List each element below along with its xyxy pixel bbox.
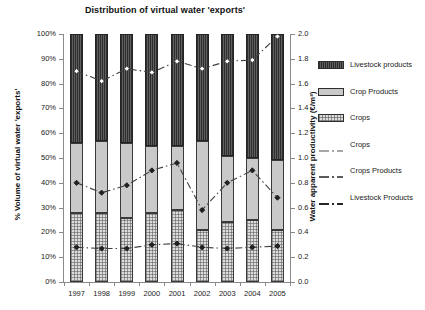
y-axis-left-tick — [59, 108, 63, 109]
legend-swatch-icon — [318, 114, 344, 122]
legend-line-key-icon — [318, 167, 344, 175]
y-axis-left-tick-label: 70% — [16, 104, 56, 112]
chart-figure: Distribution of virtual water 'exports' … — [0, 0, 425, 310]
line-marker — [250, 245, 255, 250]
y-axis-right-tick — [291, 257, 295, 258]
x-axis-tick — [190, 282, 191, 286]
y-axis-right-tick — [291, 158, 295, 159]
line-marker — [200, 245, 205, 250]
y-axis-right-tick — [291, 34, 295, 35]
x-axis-tick — [215, 282, 216, 286]
y-axis-left-tick — [59, 59, 63, 60]
x-axis-tick — [290, 282, 291, 286]
y-axis-right-tick-label: 0.4 — [298, 228, 338, 236]
line-series — [74, 34, 280, 84]
legend-line-key-icon — [318, 194, 344, 202]
legend-item[interactable]: Crop Products — [318, 85, 425, 99]
x-axis-tick — [240, 282, 241, 286]
legend-item[interactable]: Crops — [318, 111, 425, 125]
line-path — [77, 163, 278, 210]
y-axis-left-tick — [59, 282, 63, 283]
line-marker — [174, 59, 179, 64]
line-marker — [275, 34, 280, 39]
chart-title: Distribution of virtual water 'exports' — [0, 5, 330, 15]
y-axis-left-tick — [59, 158, 63, 159]
x-axis-tick — [89, 282, 90, 286]
x-axis-tick — [64, 282, 65, 286]
y-axis-left-tick-label: 20% — [16, 228, 56, 236]
line-marker — [149, 70, 154, 75]
line-marker — [174, 241, 179, 246]
legend-item[interactable]: Crops — [318, 138, 425, 152]
legend-item-label: Crops — [350, 141, 370, 149]
legend-swatch-icon — [318, 88, 344, 96]
y-axis-left-tick-label: 10% — [16, 253, 56, 261]
y-axis-left-tick-label: 30% — [16, 204, 56, 212]
x-axis-tick — [139, 282, 140, 286]
legend-item[interactable]: Livestock products — [318, 58, 425, 72]
y-axis-left-tick — [59, 183, 63, 184]
line-marker — [99, 79, 104, 84]
line-marker — [124, 66, 129, 71]
legend-item-label: Crops — [350, 114, 370, 122]
line-marker — [149, 242, 154, 247]
line-marker — [250, 57, 255, 62]
y-axis-left-tick-label: 0% — [16, 278, 56, 286]
line-marker — [99, 190, 104, 195]
chart-legend: Livestock productsCrop ProductsCropsCrop… — [318, 58, 425, 217]
line-marker — [124, 246, 129, 251]
line-marker — [225, 59, 230, 64]
plot-area: 100%90%80%70%60%50%40%30%20%10%0% 2.01.8… — [64, 34, 290, 282]
legend-swatch-icon — [318, 61, 344, 69]
x-axis-tick — [265, 282, 266, 286]
line-series-container — [64, 34, 290, 282]
y-axis-left-tick — [59, 34, 63, 35]
line-series — [74, 241, 280, 251]
y-axis-left-tick — [59, 232, 63, 233]
y-axis-right-tick — [291, 208, 295, 209]
line-marker — [99, 246, 104, 251]
y-axis-left-tick-label: 100% — [16, 30, 56, 38]
y-axis-left-tick-label: 60% — [16, 129, 56, 137]
legend-line-key-icon — [318, 141, 344, 149]
line-series — [74, 160, 280, 212]
legend-item-label: Crops Products — [350, 167, 402, 175]
legend-item-label: Livestock products — [350, 61, 412, 69]
line-marker — [124, 183, 129, 188]
y-axis-right-tick — [291, 133, 295, 134]
y-axis-left-tick-label: 90% — [16, 55, 56, 63]
line-marker — [250, 168, 255, 173]
line-marker — [74, 180, 79, 185]
legend-item-label: Livestock Products — [350, 194, 413, 202]
x-axis-tick — [114, 282, 115, 286]
y-axis-right-tick-label: 0.0 — [298, 278, 338, 286]
y-axis-right-tick-label: 0.2 — [298, 253, 338, 261]
y-axis-right-tick — [291, 59, 295, 60]
y-axis-left-tick-label: 80% — [16, 80, 56, 88]
line-marker — [225, 246, 230, 251]
y-axis-left-tick — [59, 257, 63, 258]
legend-item-label: Crop Products — [350, 88, 398, 96]
y-axis-right-tick-label: 2.0 — [298, 30, 338, 38]
line-marker — [174, 160, 179, 165]
y-axis-left-tick-label: 50% — [16, 154, 56, 162]
x-axis-tick — [164, 282, 165, 286]
y-axis-right-tick — [291, 108, 295, 109]
y-axis-right-tick — [291, 84, 295, 85]
line-marker — [74, 245, 79, 250]
x-axis-line — [63, 282, 291, 283]
y-axis-right-tick — [291, 282, 295, 283]
x-axis-tick-label: 2005 — [260, 290, 294, 298]
y-axis-right-tick — [291, 183, 295, 184]
line-marker — [149, 168, 154, 173]
y-axis-left-tick-label: 40% — [16, 179, 56, 187]
line-marker — [74, 69, 79, 74]
legend-item[interactable]: Crops Products — [318, 164, 425, 178]
y-axis-left-tick — [59, 84, 63, 85]
y-axis-left-tick — [59, 133, 63, 134]
y-axis-right-tick — [291, 232, 295, 233]
line-marker — [200, 66, 205, 71]
y-axis-left-tick — [59, 208, 63, 209]
line-marker — [275, 243, 280, 248]
legend-item[interactable]: Livestock Products — [318, 191, 425, 205]
